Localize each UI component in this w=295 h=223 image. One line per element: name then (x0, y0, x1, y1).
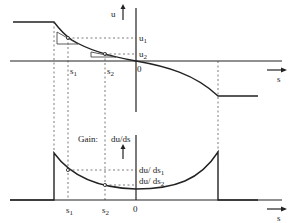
g2-label: du/ ds2 (139, 176, 165, 188)
u-axis-label: u (111, 9, 116, 19)
top-s2-label: s2 (107, 66, 115, 78)
u-curve-left (13, 22, 136, 61)
u-arrowhead-icon (121, 4, 126, 9)
bottom-plot: Gain: du/ds du/ ds1 du/ ds2 0 s1 s2 s (10, 134, 287, 223)
u-curve-right (136, 61, 258, 96)
top-plot: u u1 u2 0 s1 s2 s (10, 4, 287, 112)
bottom-s1-label: s1 (66, 205, 74, 217)
bottom-s-label: s (277, 213, 281, 223)
top-origin-label: 0 (137, 64, 142, 74)
bottom-s-arrowhead-icon (281, 207, 287, 212)
top-s-label: s (277, 74, 281, 84)
gain-arrowhead-icon (121, 144, 126, 149)
u1-label: u1 (139, 33, 148, 45)
diagram-canvas: u u1 u2 0 s1 s2 s Gain: du/ds (0, 0, 295, 223)
bottom-origin-label: 0 (133, 204, 138, 214)
gain-title: Gain: (78, 134, 98, 144)
bottom-s2-label: s2 (102, 205, 110, 217)
gain-axis-label: du/ds (111, 134, 131, 144)
gain-curve (10, 152, 258, 200)
u2-label: u2 (139, 49, 148, 61)
top-s-arrowhead-icon (281, 68, 287, 73)
top-s1-label: s1 (70, 66, 78, 78)
